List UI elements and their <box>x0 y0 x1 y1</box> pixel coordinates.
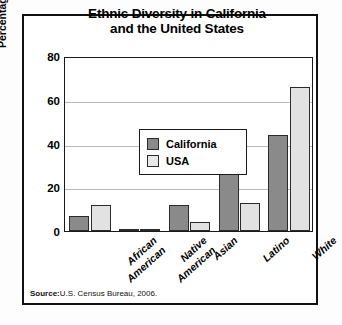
x-label-asian: Asian <box>210 234 240 262</box>
bar-native-american-california <box>119 229 139 231</box>
legend-swatch-usa <box>147 155 159 167</box>
source-label: Source: <box>30 289 60 298</box>
bar-native-american-usa <box>140 229 160 231</box>
y-tick-60: 60 <box>24 95 60 107</box>
y-tick-80: 80 <box>24 51 60 63</box>
legend-label-california: California <box>166 138 217 150</box>
y-tick-20: 20 <box>24 182 60 194</box>
bar-asian-california <box>169 205 189 231</box>
legend-item-california: California <box>147 135 239 152</box>
bar-african-american-california <box>69 216 89 231</box>
chart-title: Ethnic Diversity in California and the U… <box>22 6 332 36</box>
source-note: Source:U.S. Census Bureau, 2006. <box>30 289 157 298</box>
chart-title-line-1: Ethnic Diversity in California <box>22 6 332 21</box>
y-tick-40: 40 <box>24 139 60 151</box>
bar-white-california <box>268 135 288 231</box>
legend-swatch-california <box>147 138 159 150</box>
x-axis-category-labels: AfricanAmericanNativeAmericanAsianLatino… <box>64 234 313 286</box>
y-tick-0: 0 <box>24 226 60 238</box>
x-label-native-american: NativeAmerican <box>165 234 217 285</box>
y-axis-title: Percentage of Population <box>0 32 8 48</box>
legend: California USA <box>139 129 247 175</box>
source-text: U.S. Census Bureau, 2006. <box>60 289 157 298</box>
plot-area: California USA <box>64 57 313 232</box>
y-axis-tick-labels: 020406080 <box>22 57 60 232</box>
bar-african-american-usa <box>91 205 111 231</box>
bar-asian-usa <box>190 222 210 231</box>
x-label-african-american: AfricanAmerican <box>115 234 167 285</box>
bar-white-usa <box>290 87 310 231</box>
bar-latino-usa <box>240 203 260 231</box>
x-label-latino: Latino <box>260 234 292 264</box>
legend-item-usa: USA <box>147 152 239 169</box>
chart-title-line-2: and the United States <box>22 21 332 36</box>
legend-label-usa: USA <box>166 155 189 167</box>
